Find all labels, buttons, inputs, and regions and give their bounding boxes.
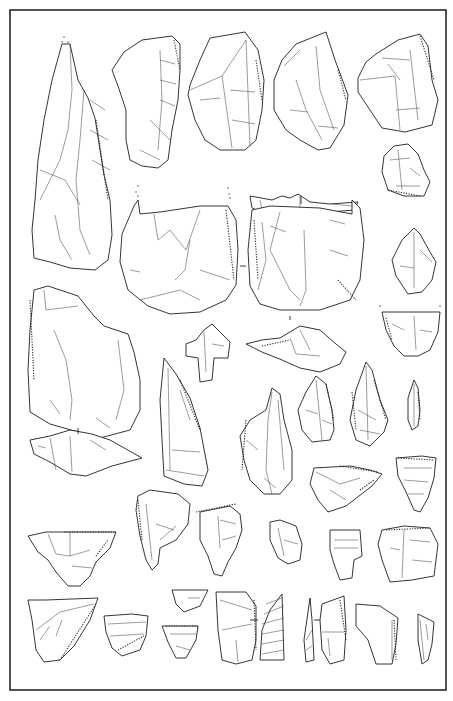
striking-platform-dot bbox=[67, 41, 68, 42]
striking-platform-dot bbox=[227, 187, 228, 188]
striking-platform-dot bbox=[61, 41, 62, 42]
artifact-outline bbox=[378, 526, 438, 582]
striking-platform-dot bbox=[439, 305, 440, 306]
lithic-artifact-plate bbox=[0, 0, 453, 701]
striking-platform-dot bbox=[63, 36, 64, 37]
artifact-drawing bbox=[378, 526, 438, 582]
artifact-outline bbox=[216, 592, 256, 664]
striking-platform-dot bbox=[228, 193, 229, 194]
artifact-drawing bbox=[120, 200, 238, 314]
striking-platform-dot bbox=[137, 185, 138, 186]
striking-platform-dot bbox=[135, 191, 136, 192]
striking-platform-dot bbox=[379, 305, 380, 306]
artifact-drawing bbox=[216, 592, 256, 664]
striking-platform-dot bbox=[229, 197, 230, 198]
artifact-outline bbox=[120, 200, 238, 314]
plate-drawing bbox=[0, 0, 453, 701]
striking-platform-dot bbox=[137, 195, 138, 196]
artifact-drawing bbox=[320, 596, 346, 664]
artifact-drawing bbox=[248, 200, 364, 310]
artifact-outline bbox=[320, 596, 346, 664]
